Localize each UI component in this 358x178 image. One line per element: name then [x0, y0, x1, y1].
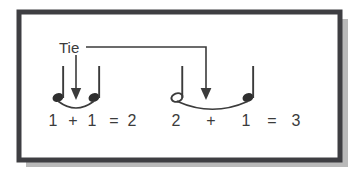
figure-frame	[19, 12, 340, 160]
music-tie-diagram: Tie 1 +	[0, 0, 358, 178]
eq-right-term-2: 1	[242, 112, 251, 129]
eq-left-result: 2	[128, 112, 137, 129]
eq-right-equals: =	[267, 112, 276, 129]
eq-left-term-2: 1	[88, 112, 97, 129]
eq-left-equals: =	[109, 112, 118, 129]
note-stem	[252, 66, 254, 98]
tie-label: Tie	[59, 39, 79, 56]
eq-right-result: 3	[292, 112, 301, 129]
note-stem	[62, 66, 64, 98]
eq-right-operator: +	[206, 112, 215, 129]
eq-left-operator: +	[68, 112, 77, 129]
note-stem	[98, 66, 100, 98]
eq-left-term-1: 1	[49, 112, 58, 129]
eq-right-term-1: 2	[172, 112, 181, 129]
figure-canvas: Tie 1 +	[0, 0, 358, 178]
note-stem	[181, 66, 183, 98]
